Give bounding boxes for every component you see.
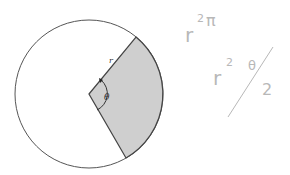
handwritten-formula: r 2 θ 2	[213, 47, 273, 117]
note2-denom: 2	[262, 80, 272, 99]
note2-theta: θ	[248, 58, 256, 73]
theta-label: θ	[104, 92, 110, 102]
note2-r: r	[213, 66, 222, 90]
note-pi: π	[206, 11, 216, 30]
diagram-canvas: r θ r 2 π r 2 θ 2	[0, 0, 290, 175]
sector-diagram: r θ r 2 π r 2 θ 2	[0, 0, 290, 175]
note2-exp: 2	[226, 56, 233, 69]
note-exp: 2	[197, 12, 204, 25]
handwritten-note-area: r 2 π	[185, 11, 216, 47]
note-r: r	[185, 23, 194, 47]
